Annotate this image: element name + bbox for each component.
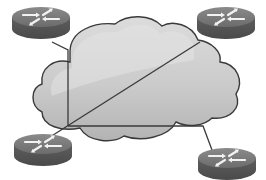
- router-bottom-left: [14, 134, 72, 166]
- router-top-left: [12, 7, 70, 39]
- network-diagram: [0, 0, 266, 180]
- router-top-right: [197, 7, 255, 39]
- router-bottom-right: [198, 148, 256, 180]
